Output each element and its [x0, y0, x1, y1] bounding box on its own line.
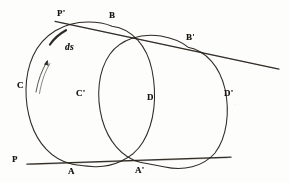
geometry-figure: P' B B' ds C C' D D' P A A' [0, 0, 290, 183]
oval-right-curve [99, 35, 228, 168]
oval-left-curve [26, 22, 155, 167]
figure-canvas [0, 0, 290, 183]
label-ds: ds [65, 43, 74, 53]
label-b-prime: B' [186, 33, 195, 42]
label-b: B [109, 11, 115, 20]
label-c: C [17, 81, 24, 90]
label-a-prime: A' [135, 166, 144, 175]
label-a: A [68, 167, 75, 176]
label-d-prime: D' [224, 89, 233, 98]
upper-tangent-line-shadow [60, 23, 275, 69]
lower-tangent-line-shadow [30, 158, 228, 165]
label-d: D [147, 93, 154, 102]
label-p: P [12, 155, 18, 164]
arc-direction-arrow [36, 62, 47, 93]
label-p-prime: P' [57, 9, 65, 18]
arc-direction-arrow-tail [40, 64, 51, 94]
label-c-prime: C' [76, 89, 85, 98]
